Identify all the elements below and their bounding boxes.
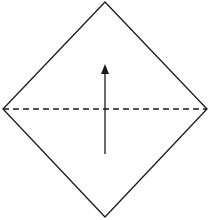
origami-diagram [0, 0, 209, 220]
diagram-svg [0, 0, 209, 220]
